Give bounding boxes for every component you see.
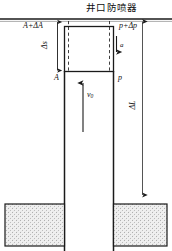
label-pressure-top: p+Δp	[119, 22, 137, 30]
label-length: ΔL	[129, 100, 137, 109]
label-velocity-subscript: 0	[91, 93, 94, 99]
label-displacement: Δs	[41, 41, 49, 49]
label-area-top: A+ΔA	[23, 22, 43, 30]
formation-layer	[5, 204, 167, 246]
diagram-title: 井口防喷器	[86, 3, 138, 13]
displaced-control-volume	[69, 21, 110, 71]
diagram-canvas	[0, 0, 172, 251]
fluid-element-box	[65, 27, 114, 72]
wellbore-blowout-preventer-diagram: 井口防喷器 A+ΔA p+Δp Δs a A p v0 ΔL	[0, 0, 172, 251]
label-pressure-bottom: p	[118, 74, 122, 82]
label-velocity: v0	[87, 84, 93, 100]
label-area-bottom: A	[54, 74, 59, 82]
label-acceleration: a	[120, 42, 124, 49]
